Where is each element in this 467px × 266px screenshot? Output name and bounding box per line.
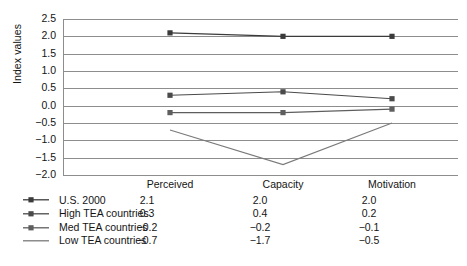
data-point-marker (389, 107, 394, 112)
legend-swatch-icon (23, 234, 53, 248)
x-axis-tick-label: Motivation (368, 178, 416, 190)
x-axis-tick-label: Capacity (263, 178, 304, 190)
y-axis-tick-label: 2.0 (22, 30, 56, 41)
y-axis-tick-label: 0.0 (22, 100, 56, 111)
gridline (63, 175, 458, 176)
y-axis-tick-label: 2.5 (22, 13, 56, 24)
y-axis-tick-label: −2.0 (22, 169, 56, 180)
value-cell: 0.2 (346, 207, 392, 219)
data-point-marker (167, 110, 172, 115)
value-cell: −1.7 (237, 234, 283, 246)
legend-row[interactable]: U.S. 20002.12.02.0 (23, 193, 453, 207)
y-axis-tick-label: −1.0 (22, 134, 56, 145)
legend-row[interactable]: Med TEA countries−0.2−0.2−0.1 (23, 220, 453, 234)
value-cell: 2.0 (237, 194, 283, 206)
legend-row[interactable]: High TEA countries0.30.40.2 (23, 207, 453, 221)
legend-label: U.S. 2000 (59, 194, 106, 206)
y-axis-tick-label: −0.5 (22, 117, 56, 128)
y-axis-tick-label: 0.5 (22, 82, 56, 93)
plot-area (63, 19, 458, 175)
data-point-marker (280, 110, 285, 115)
value-cell: −0.2 (124, 221, 170, 233)
data-point-marker (167, 93, 172, 98)
data-series-layer (63, 19, 458, 175)
y-axis-tick-label: −1.5 (22, 152, 56, 163)
legend-row[interactable]: Low TEA countries−0.7−1.7−0.5 (23, 234, 453, 248)
value-cell: 0.4 (237, 207, 283, 219)
value-cell: −0.2 (237, 221, 283, 233)
value-cell: −0.7 (124, 234, 170, 246)
value-cell: 2.1 (124, 194, 170, 206)
chart-root: Index values 2.52.01.51.00.50.0−0.5−1.0−… (0, 0, 467, 266)
data-point-marker (280, 34, 285, 39)
legend-and-value-table: U.S. 20002.12.02.0High TEA countries0.30… (23, 193, 453, 247)
value-cell: −0.5 (346, 234, 392, 246)
y-axis-tick-label: 1.0 (22, 65, 56, 76)
value-cell: −0.1 (346, 221, 392, 233)
value-cell: 2.0 (346, 194, 392, 206)
data-point-marker (280, 89, 285, 94)
data-point-marker (389, 96, 394, 101)
legend-swatch-icon (23, 220, 53, 234)
value-cell: 0.3 (124, 207, 170, 219)
y-axis-tick-label: 1.5 (22, 48, 56, 59)
x-axis-category-labels: PerceivedCapacityMotivation (63, 178, 458, 194)
legend-swatch-icon (23, 207, 53, 221)
series-line (170, 123, 392, 165)
legend-swatch-icon (23, 193, 53, 207)
data-point-marker (389, 34, 394, 39)
data-point-marker (167, 30, 172, 35)
x-axis-tick-label: Perceived (147, 178, 194, 190)
